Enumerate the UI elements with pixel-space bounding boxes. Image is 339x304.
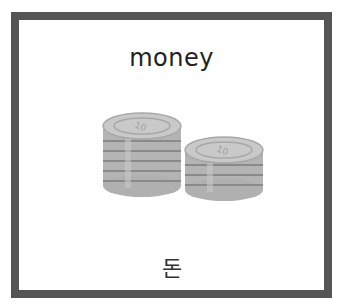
right-coin-stack: 10 (185, 137, 263, 201)
flashcard: money 10 (11, 12, 332, 298)
left-coin-stack: 10 (103, 113, 181, 197)
english-word: money (19, 44, 324, 72)
coin-stacks-icon: 10 10 (95, 108, 265, 208)
korean-word: 돈 (19, 250, 324, 282)
